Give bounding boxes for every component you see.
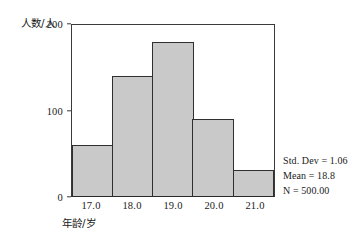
stat-std-dev: Std. Dev = 1.06 [283,153,348,168]
x-tick-label-0: 17.0 [81,200,100,211]
bar-21 [233,170,275,196]
x-tick-label-4: 21.0 [245,200,264,211]
y-tick-label-0: 0 [58,192,63,203]
histogram-figure: 人数/人 200 100 0 17.0 18.0 19.0 20.0 21.0 … [0,0,363,240]
x-axis-title: 年龄/岁 [62,215,96,230]
x-tick-label-2: 19.0 [163,200,182,211]
stat-n: N = 500.00 [283,183,348,198]
y-tick-label-200: 200 [47,19,63,30]
x-tick-label-3: 20.0 [204,200,223,211]
bar-19 [152,42,194,196]
x-tick-label-1: 18.0 [122,200,141,211]
y-axis: 200 100 0 [0,0,71,240]
y-tick-label-100: 100 [47,106,63,117]
bar-17 [72,145,114,196]
bar-series [72,25,274,196]
bar-18 [112,76,154,196]
plot-area [71,24,275,197]
stat-mean: Mean = 18.8 [283,168,348,183]
stats-annotation: Std. Dev = 1.06 Mean = 18.8 N = 500.00 [283,153,348,198]
bar-20 [192,119,234,196]
